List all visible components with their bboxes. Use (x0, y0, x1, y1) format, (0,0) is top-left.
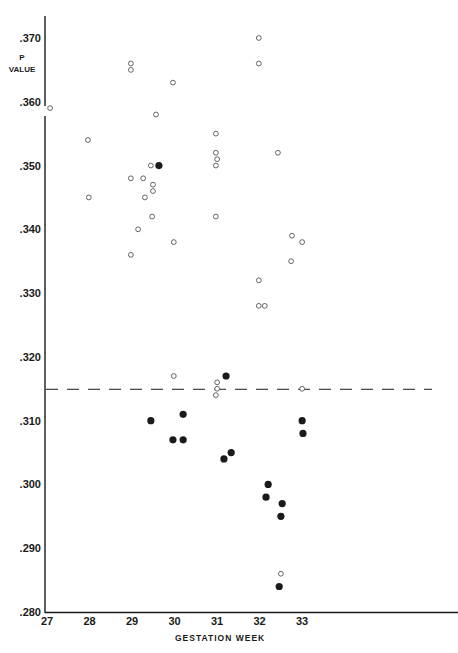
y-tick-labels: .370.360.350.340.330.320.310.300.290.280 (20, 32, 41, 618)
filled-data-point (222, 372, 229, 379)
open-data-point (128, 176, 133, 181)
filled-data-point (169, 436, 176, 443)
filled-data-point (220, 455, 227, 462)
open-data-point (289, 259, 294, 264)
filled-data-point (155, 162, 162, 169)
open-data-point (151, 182, 156, 187)
y-tick-label: .370 (20, 32, 41, 44)
open-data-point (213, 163, 218, 168)
x-tick-label: 29 (126, 615, 138, 627)
filled-data-point (299, 430, 306, 437)
open-data-point (276, 150, 281, 155)
y-axis-label-line: VALUE (9, 65, 36, 74)
x-tick-label: 31 (211, 615, 223, 627)
y-tick-label: .300 (20, 478, 41, 490)
filled-data-point (265, 481, 272, 488)
filled-data-point (180, 411, 187, 418)
open-data-point (256, 278, 261, 283)
open-data-point (213, 214, 218, 219)
data-points (48, 36, 307, 591)
x-tick-label: 27 (41, 615, 53, 627)
filled-data-point (262, 494, 269, 501)
open-data-point (300, 240, 305, 245)
y-axis-label-line: P (19, 53, 25, 62)
open-data-point (215, 380, 220, 385)
open-data-point (171, 80, 176, 85)
filled-data-point (277, 513, 284, 520)
open-data-point (213, 150, 218, 155)
open-data-point (256, 61, 261, 66)
open-data-point (86, 195, 91, 200)
y-tick-label: .340 (20, 223, 41, 235)
filled-data-point (299, 417, 306, 424)
open-data-point (256, 303, 261, 308)
open-data-point (48, 106, 53, 111)
open-data-point (290, 233, 295, 238)
x-axis-label: GESTATION WEEK (175, 633, 265, 643)
y-tick-label: .290 (20, 542, 41, 554)
open-data-point (171, 240, 176, 245)
y-axis-label: PVALUE (9, 53, 36, 74)
filled-data-point (279, 500, 286, 507)
open-data-point (141, 176, 146, 181)
open-data-point (215, 386, 220, 391)
filled-data-point (147, 417, 154, 424)
y-tick-label: .330 (20, 287, 41, 299)
x-tick-label: 32 (253, 615, 265, 627)
open-data-point (262, 303, 267, 308)
y-tick-label: .360 (20, 96, 41, 108)
open-data-point (128, 67, 133, 72)
filled-data-point (228, 449, 235, 456)
x-tick-label: 33 (296, 615, 308, 627)
open-data-point (215, 157, 220, 162)
y-tick-label: .320 (20, 351, 41, 363)
x-tick-labels: 27282930313233 (41, 615, 308, 627)
open-data-point (213, 131, 218, 136)
open-data-point (150, 214, 155, 219)
open-data-point (136, 227, 141, 232)
open-data-point (86, 138, 91, 143)
open-data-point (300, 386, 305, 391)
open-data-point (143, 195, 148, 200)
open-data-point (256, 36, 261, 41)
x-tick-label: 30 (168, 615, 180, 627)
filled-data-point (276, 583, 283, 590)
x-tick-label: 28 (83, 615, 95, 627)
y-tick-label: .280 (20, 606, 41, 618)
scatter-chart: .370.360.350.340.330.320.310.300.290.280… (0, 0, 458, 653)
open-data-point (171, 374, 176, 379)
open-data-point (279, 571, 284, 576)
axes (45, 16, 458, 613)
y-tick-label: .350 (20, 160, 41, 172)
filled-data-point (180, 436, 187, 443)
open-data-point (128, 61, 133, 66)
open-data-point (151, 189, 156, 194)
open-data-point (213, 393, 218, 398)
open-data-point (154, 112, 159, 117)
y-tick-label: .310 (20, 415, 41, 427)
open-data-point (148, 163, 153, 168)
open-data-point (128, 252, 133, 257)
